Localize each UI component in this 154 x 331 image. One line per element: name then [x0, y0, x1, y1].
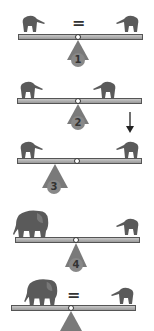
small-elephant-right-icon	[92, 80, 118, 100]
small-elephant-right-icon	[110, 286, 136, 306]
fulcrum	[60, 311, 82, 331]
small-elephant-left-icon	[18, 140, 44, 160]
panel-5: =	[0, 270, 154, 328]
equals-sign: =	[72, 18, 85, 28]
panel-2: 2	[0, 68, 154, 130]
panel-number-1: 1	[71, 53, 85, 67]
small-elephant-left-icon	[18, 80, 44, 100]
pivot-point	[74, 158, 80, 164]
small-elephant-left-icon	[20, 14, 46, 34]
panel-3: 3	[0, 130, 154, 195]
small-elephant-right-icon	[115, 14, 141, 34]
panel-4: 4	[0, 195, 154, 270]
small-elephant-right-icon	[115, 140, 141, 160]
small-elephant-right-icon	[115, 217, 141, 237]
panel-number-2: 2	[71, 116, 85, 130]
large-elephant-left-icon	[13, 207, 51, 239]
large-elephant-left-icon	[24, 276, 60, 306]
panel-number-3: 3	[47, 180, 61, 194]
panel-1: = 1	[0, 0, 154, 68]
equals-sign: =	[67, 290, 80, 300]
